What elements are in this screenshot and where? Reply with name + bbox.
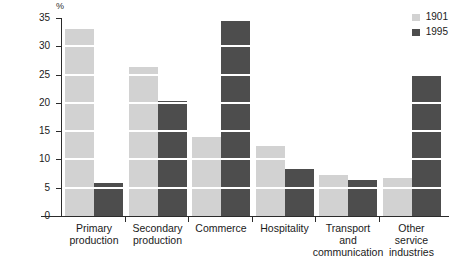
y-tick-label-25: 25 bbox=[0, 70, 50, 80]
bar-1995 bbox=[158, 101, 187, 216]
bar-chart: % 19011995 05101520253035 Primaryproduct… bbox=[0, 0, 454, 268]
y-tick-label-15: 15 bbox=[0, 126, 50, 136]
category-label-line: service bbox=[367, 234, 454, 246]
bar-1901 bbox=[256, 146, 285, 216]
bar-1995 bbox=[285, 169, 314, 216]
bar-group bbox=[256, 18, 314, 216]
bar-1901 bbox=[319, 175, 348, 216]
bar-1995 bbox=[412, 76, 441, 216]
bar-1901 bbox=[65, 29, 94, 216]
bar-1901 bbox=[192, 137, 221, 216]
bar-1901 bbox=[383, 178, 412, 216]
y-tick-label-30: 30 bbox=[0, 41, 50, 51]
y-tick-0 bbox=[56, 216, 62, 217]
category-label-line: Other bbox=[367, 222, 454, 234]
bar-1901 bbox=[129, 67, 158, 216]
y-axis-unit-label: % bbox=[56, 1, 64, 11]
category-label-line: production bbox=[113, 234, 203, 246]
plot-area bbox=[62, 18, 442, 216]
bar-1995 bbox=[221, 21, 250, 216]
bar-group bbox=[65, 18, 123, 216]
y-tick-label-35: 35 bbox=[0, 13, 50, 23]
bar-group bbox=[319, 18, 377, 216]
category-label-5: Otherserviceindustries bbox=[367, 222, 454, 258]
bar-1995 bbox=[348, 180, 377, 216]
y-tick-label-5: 5 bbox=[0, 183, 50, 193]
y-tick-label-20: 20 bbox=[0, 98, 50, 108]
category-label-line: industries bbox=[367, 246, 454, 258]
x-axis-line bbox=[41, 216, 449, 217]
bar-1995 bbox=[94, 183, 123, 216]
bar-group bbox=[383, 18, 441, 216]
y-tick-label-10: 10 bbox=[0, 154, 50, 164]
y-axis-tick-labels: 05101520253035 bbox=[0, 0, 56, 268]
bar-group bbox=[192, 18, 250, 216]
bar-group bbox=[129, 18, 187, 216]
